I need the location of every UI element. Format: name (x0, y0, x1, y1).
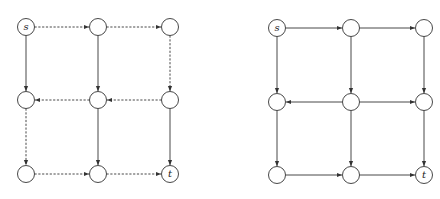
node-0-2 (18, 166, 35, 183)
node-circle (343, 94, 360, 111)
node-0-1 (269, 94, 286, 111)
node-2-0 (416, 20, 433, 37)
node-circle (269, 167, 286, 184)
node-1-2 (90, 166, 107, 183)
node-2-1 (162, 92, 179, 109)
left-graph: st (18, 19, 179, 183)
node-s: s (269, 20, 286, 37)
graph-canvas: st st (0, 0, 440, 199)
node-1-1 (343, 94, 360, 111)
node-1-0 (90, 19, 107, 36)
node-circle (90, 166, 107, 183)
node-circle (343, 20, 360, 37)
node-circle (416, 94, 433, 111)
node-circle (162, 19, 179, 36)
node-circle (343, 167, 360, 184)
node-circle (162, 92, 179, 109)
node-0-2 (269, 167, 286, 184)
node-circle (18, 92, 35, 109)
node-circle (90, 19, 107, 36)
grid-graphs-figure: st st (0, 0, 440, 199)
node-s: s (18, 19, 35, 36)
node-circle (416, 20, 433, 37)
node-0-1 (18, 92, 35, 109)
node-label: s (23, 21, 28, 32)
node-1-1 (90, 92, 107, 109)
node-2-0 (162, 19, 179, 36)
node-2-1 (416, 94, 433, 111)
node-t: t (416, 167, 433, 184)
node-t: t (162, 166, 179, 183)
node-label: s (274, 22, 279, 33)
right-graph: st (269, 20, 433, 184)
node-1-2 (343, 167, 360, 184)
node-circle (18, 166, 35, 183)
node-1-0 (343, 20, 360, 37)
node-circle (90, 92, 107, 109)
node-circle (269, 94, 286, 111)
